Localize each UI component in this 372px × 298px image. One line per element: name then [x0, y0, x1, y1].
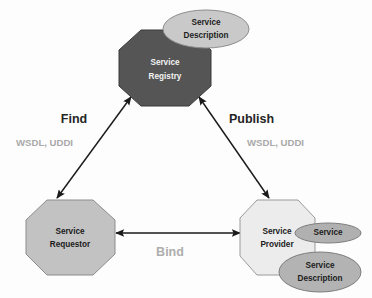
find-sublabel: WSDL, UDDI	[16, 137, 73, 148]
provider-service-description-shape[interactable]	[279, 252, 361, 292]
ellipse-provider-service-description[interactable]: Service Description	[279, 252, 361, 292]
service-registry-label-line1: Service	[150, 58, 180, 67]
bind-label: Bind	[156, 245, 184, 259]
soa-triangle-diagram: Service Registry Service Description Ser…	[0, 0, 372, 298]
service-requestor-octagon[interactable]	[26, 200, 115, 275]
service-registry-label-line2: Registry	[149, 72, 182, 81]
provider-service-label: Service	[313, 228, 343, 237]
service-provider-label-line1: Service	[262, 227, 292, 236]
publish-label: Publish	[229, 112, 274, 126]
provider-service-description-line1: Service	[305, 261, 335, 270]
ellipse-registry-service-description[interactable]: Service Description	[163, 10, 249, 48]
service-requestor-label-line1: Service	[55, 227, 85, 236]
node-service-requestor[interactable]: Service Requestor	[26, 200, 115, 275]
registry-service-description-line2: Description	[183, 31, 228, 40]
provider-service-description-line2: Description	[297, 274, 342, 283]
registry-service-description-line1: Service	[191, 18, 221, 27]
service-requestor-label-line2: Requestor	[50, 240, 91, 249]
diagram-canvas: Service Registry Service Description Ser…	[0, 0, 372, 298]
registry-service-description-shape[interactable]	[163, 10, 249, 48]
publish-sublabel: WSDL, UDDI	[247, 137, 304, 148]
service-provider-label-line2: Provider	[260, 240, 294, 249]
find-label: Find	[61, 112, 87, 126]
ellipse-provider-service[interactable]: Service	[295, 223, 361, 243]
